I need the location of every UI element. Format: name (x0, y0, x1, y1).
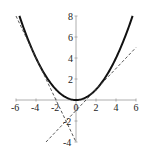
axes (16, 16, 136, 142)
x-tick-label: 4 (114, 102, 119, 113)
y-tick-label: 8 (68, 11, 73, 22)
x-tick-label: 0 (74, 102, 79, 113)
x-tick-label: -2 (51, 102, 59, 113)
x-tick-label: -6 (11, 102, 19, 113)
y-tick-label: 6 (68, 32, 73, 43)
y-tick-label: 2 (68, 74, 73, 85)
y-tick-label: 4 (68, 53, 73, 64)
x-tick-label: 2 (94, 102, 99, 113)
x-tick-label: 6 (134, 102, 139, 113)
y-tick-label: -2 (63, 116, 71, 127)
parabola-chart: -6-4-20246-4-22468 (0, 0, 146, 153)
y-tick-label: -4 (63, 137, 71, 148)
tangent-at-x-2-line (46, 48, 136, 143)
x-tick-label: -4 (31, 102, 39, 113)
